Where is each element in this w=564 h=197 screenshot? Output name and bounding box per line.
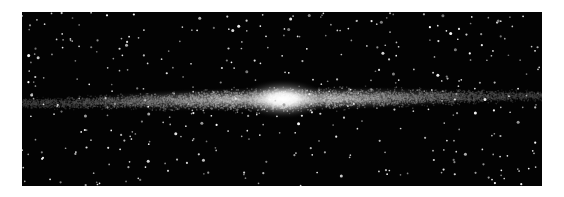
galaxy-canvas (22, 12, 542, 186)
galaxy-photo (22, 12, 542, 186)
